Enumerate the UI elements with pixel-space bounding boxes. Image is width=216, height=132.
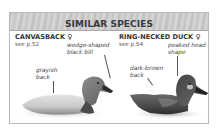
ring-necked-duck-illustration [128,73,210,119]
annotation-grayish-back: grayish back [36,67,57,80]
canvasback-duck-illustration [14,75,114,119]
similar-species-panel: SIMILAR SPECIES CANVASBACK ♀ see p.52 RI… [9,12,209,124]
panel-header: SIMILAR SPECIES [10,13,208,31]
annotation-wedge-shaped-bill: wedge-shaped black bill [67,42,110,55]
female-symbol-icon: ♀ [196,33,201,41]
panel-title: SIMILAR SPECIES [65,19,153,29]
page-reference: see p.52 [15,41,72,48]
leader-line [53,81,54,93]
annotation-dark-brown-back: dark-brown back [130,65,163,78]
species-canvasback: CANVASBACK ♀ see p.52 [15,33,72,48]
species-name: CANVASBACK ♀ [15,33,72,41]
annotation-peaked-head-shape: peaked head shape [168,42,206,55]
species-name: RING-NECKED DUCK ♀ [119,33,201,41]
leader-line [177,56,178,76]
female-symbol-icon: ♀ [67,33,72,41]
